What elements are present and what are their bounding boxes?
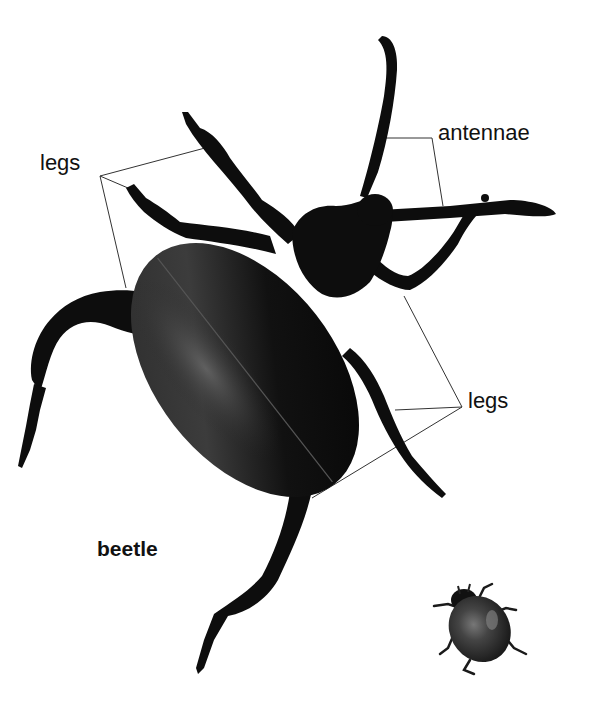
beetle-diagram: legs antennae legs beetle [0, 0, 608, 713]
beetle-illustration [0, 0, 608, 713]
label-beetle-title: beetle [97, 538, 158, 559]
label-legs-right: legs [468, 390, 508, 412]
label-antennae: antennae [438, 122, 530, 144]
ladybird [434, 584, 526, 674]
label-legs-left: legs [40, 152, 80, 174]
